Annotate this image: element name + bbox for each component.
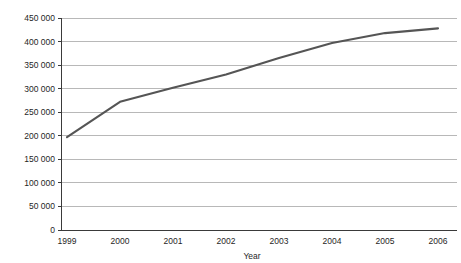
xtick-label-2005: 2005 xyxy=(376,236,395,246)
xtick-label-2004: 2004 xyxy=(323,236,342,246)
y-tick-marks xyxy=(58,18,61,230)
ytick-label-250000: 250 000 xyxy=(24,107,55,117)
ytick-label-50000: 50 000 xyxy=(29,201,55,211)
ytick-label-350000: 350 000 xyxy=(24,60,55,70)
xtick-label-1999: 1999 xyxy=(58,236,77,246)
plot-area: 450 000 400 000 350 000 300 000 250 000 … xyxy=(0,0,461,263)
x-axis-title: Year xyxy=(243,251,260,261)
ytick-label-100000: 100 000 xyxy=(24,178,55,188)
gridlines xyxy=(61,18,457,206)
line-chart-svg: 450 000 400 000 350 000 300 000 250 000 … xyxy=(0,0,461,263)
ytick-label-150000: 150 000 xyxy=(24,154,55,164)
ytick-label-0: 0 xyxy=(50,225,55,235)
chart-figure: 450 000 400 000 350 000 300 000 250 000 … xyxy=(0,0,461,263)
ytick-label-300000: 300 000 xyxy=(24,84,55,94)
xtick-label-2001: 2001 xyxy=(164,236,183,246)
ytick-label-400000: 400 000 xyxy=(24,37,55,47)
xtick-label-2003: 2003 xyxy=(270,236,289,246)
xtick-label-2006: 2006 xyxy=(429,236,448,246)
ytick-label-450000: 450 000 xyxy=(24,13,55,23)
ytick-label-200000: 200 000 xyxy=(24,131,55,141)
xtick-label-2000: 2000 xyxy=(111,236,130,246)
xtick-label-2002: 2002 xyxy=(217,236,236,246)
data-series-line xyxy=(67,28,438,137)
x-axis-labels: 1999 2000 2001 2002 2003 2004 2005 2006 xyxy=(58,236,448,246)
y-axis-labels: 450 000 400 000 350 000 300 000 250 000 … xyxy=(24,13,55,235)
